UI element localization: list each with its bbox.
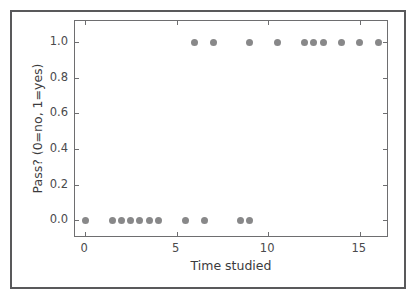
x-tick-mark bbox=[177, 232, 178, 236]
y-tick-label: 0.6 bbox=[50, 105, 68, 119]
x-tick-mark bbox=[85, 21, 86, 25]
x-tick-mark bbox=[268, 21, 269, 25]
data-point bbox=[155, 217, 162, 224]
data-point bbox=[274, 39, 281, 46]
data-point bbox=[320, 39, 327, 46]
data-point bbox=[246, 39, 253, 46]
y-tick-label: 0.0 bbox=[50, 212, 68, 226]
data-point bbox=[356, 39, 363, 46]
data-point bbox=[136, 217, 143, 224]
x-tick-label: 15 bbox=[351, 241, 366, 255]
x-tick-label: 5 bbox=[172, 241, 179, 255]
x-axis-tick-labels: 051015 bbox=[0, 241, 416, 259]
data-point bbox=[246, 217, 253, 224]
x-tick-mark bbox=[268, 232, 269, 236]
y-tick-mark bbox=[383, 78, 387, 79]
data-point bbox=[338, 39, 345, 46]
x-tick-label: 10 bbox=[260, 241, 275, 255]
data-point bbox=[182, 217, 189, 224]
y-tick-mark bbox=[75, 42, 79, 43]
x-axis-label: Time studied bbox=[74, 258, 388, 273]
x-tick-mark bbox=[360, 232, 361, 236]
y-tick-label: 0.8 bbox=[50, 70, 68, 84]
data-point bbox=[237, 217, 244, 224]
data-point bbox=[375, 39, 382, 46]
y-tick-mark bbox=[383, 113, 387, 114]
y-tick-mark bbox=[75, 149, 79, 150]
x-tick-label: 0 bbox=[80, 241, 87, 255]
data-point bbox=[201, 217, 208, 224]
figure: 0.00.20.40.60.81.0 051015 Time studied P… bbox=[0, 0, 416, 299]
data-point bbox=[118, 217, 125, 224]
x-tick-mark bbox=[360, 21, 361, 25]
y-tick-mark bbox=[383, 185, 387, 186]
y-tick-mark bbox=[75, 113, 79, 114]
y-axis-label: Pass? (0=no, 1=yes) bbox=[30, 20, 45, 237]
x-tick-mark bbox=[85, 232, 86, 236]
data-point bbox=[210, 39, 217, 46]
data-point bbox=[109, 217, 116, 224]
y-tick-mark bbox=[75, 78, 79, 79]
x-tick-mark bbox=[177, 21, 178, 25]
y-tick-mark bbox=[75, 185, 79, 186]
y-tick-label: 0.2 bbox=[50, 177, 68, 191]
data-point bbox=[146, 217, 153, 224]
data-point bbox=[82, 217, 89, 224]
y-tick-mark bbox=[75, 220, 79, 221]
data-point bbox=[310, 39, 317, 46]
y-tick-mark bbox=[383, 149, 387, 150]
y-tick-label: 1.0 bbox=[50, 34, 68, 48]
y-tick-mark bbox=[383, 42, 387, 43]
data-point bbox=[127, 217, 134, 224]
y-tick-mark bbox=[383, 220, 387, 221]
data-point bbox=[191, 39, 198, 46]
plot-area bbox=[74, 20, 388, 237]
y-tick-label: 0.4 bbox=[50, 141, 68, 155]
data-point bbox=[301, 39, 308, 46]
